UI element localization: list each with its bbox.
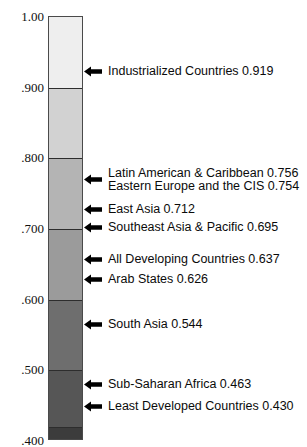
annotation-label: East Asia 0.712: [108, 203, 195, 216]
annotation-label: Latin American & Caribbean 0.756: [108, 167, 298, 180]
axis-tick-label: .900: [21, 81, 44, 94]
left-arrow-icon: [84, 222, 102, 233]
axis-tick-label: .600: [21, 293, 44, 306]
annotation-arab-states: Arab States 0.626: [84, 272, 208, 286]
annotation-least-developed-countries: Least Developed Countries 0.430: [84, 399, 294, 413]
annotation-south-asia: South Asia 0.544: [84, 317, 203, 331]
axis-tick-label: .500: [21, 363, 44, 376]
left-arrow-icon: [84, 204, 102, 215]
annotation-southeast-asia-pacific: Southeast Asia & Pacific 0.695: [84, 220, 278, 234]
hdi-colorbar: [48, 16, 83, 440]
annotation-all-developing-countries: All Developing Countries 0.637: [84, 252, 280, 266]
annotation-east-asia: East Asia 0.712: [84, 202, 195, 216]
left-arrow-icon: [84, 319, 102, 330]
annotation-label: Industrialized Countries 0.919: [108, 65, 273, 78]
annotation-latin-american-caribbean: Latin American & Caribbean 0.756: [84, 166, 298, 180]
annotation-label: All Developing Countries 0.637: [108, 253, 280, 266]
left-arrow-icon: [84, 254, 102, 265]
annotation-industrialized-countries: Industrialized Countries 0.919: [84, 64, 273, 78]
left-arrow-icon: [84, 379, 102, 390]
annotation-label: Eastern Europe and the CIS 0.754: [108, 180, 299, 193]
axis-tick-label: 1.00: [21, 10, 44, 23]
annotation-label: South Asia 0.544: [108, 318, 203, 331]
colorbar-band: [49, 370, 82, 427]
annotation-label: Southeast Asia & Pacific 0.695: [108, 221, 278, 234]
colorbar-band: [49, 88, 82, 159]
left-arrow-icon: [84, 66, 102, 77]
annotation-eastern-europe-cis: Eastern Europe and the CIS 0.754: [84, 179, 299, 193]
annotation-label: Arab States 0.626: [108, 273, 208, 286]
annotation-sub-saharan-africa: Sub-Saharan Africa 0.463: [84, 377, 251, 391]
colorbar-band: [49, 17, 82, 88]
axis-tick-label: .700: [21, 222, 44, 235]
left-arrow-icon: [84, 274, 102, 285]
annotation-label: Sub-Saharan Africa 0.463: [108, 378, 251, 391]
axis-tick-label: .400: [21, 434, 44, 447]
hdi-colorbar-figure: 1.00.900.800.700.600.500.400 Industriali…: [0, 0, 307, 447]
colorbar-band: [49, 229, 82, 300]
colorbar-band: [49, 427, 82, 440]
axis-tick-label: .800: [21, 151, 44, 164]
colorbar-band: [49, 158, 82, 229]
left-arrow-icon: [84, 401, 102, 412]
annotation-label: Least Developed Countries 0.430: [108, 400, 294, 413]
colorbar-band: [49, 300, 82, 371]
